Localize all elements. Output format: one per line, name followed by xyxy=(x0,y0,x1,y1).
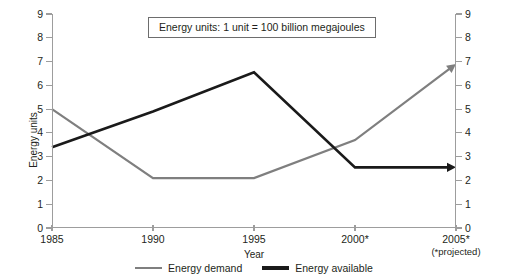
y-tick-right-0 xyxy=(456,227,462,228)
y-tick-left-4 xyxy=(46,132,52,133)
x-tick-label-note: (*projected) xyxy=(431,247,480,257)
y-tick-right-3 xyxy=(456,156,462,157)
x-tick-0 xyxy=(51,225,52,231)
y-tick-right-9 xyxy=(456,13,462,14)
y-tick-left-8 xyxy=(46,37,52,38)
y-tick-right-7 xyxy=(456,61,462,62)
y-tick-left-3 xyxy=(46,156,52,157)
y-tick-right-4 xyxy=(456,132,462,133)
legend-line-swatch xyxy=(262,266,289,269)
y-tick-label-right-6: 6 xyxy=(465,80,471,91)
x-tick-3 xyxy=(354,225,355,231)
x-tick-4 xyxy=(455,225,456,231)
y-axis-left-line xyxy=(52,14,53,228)
legend-label: Energy demand xyxy=(168,262,242,274)
y-tick-label-left-9: 9 xyxy=(37,9,43,20)
y-tick-right-8 xyxy=(456,37,462,38)
y-tick-label-right-7: 7 xyxy=(465,56,471,67)
y-tick-label-left-1: 1 xyxy=(37,199,43,210)
x-tick-label-4: 2005*(*projected) xyxy=(431,234,480,257)
y-tick-label-right-3: 3 xyxy=(465,151,471,162)
y-tick-right-1 xyxy=(456,204,462,205)
x-tick-label-0: 1985 xyxy=(40,234,63,245)
y-tick-left-9 xyxy=(46,13,52,14)
legend-label: Energy available xyxy=(295,262,373,274)
y-tick-label-left-4: 4 xyxy=(37,127,43,138)
x-tick-label-main: 1985 xyxy=(40,233,63,245)
y-tick-label-left-5: 5 xyxy=(37,104,43,115)
series-line-energy-available xyxy=(52,72,449,167)
y-tick-label-right-0: 0 xyxy=(465,223,471,234)
series-lines xyxy=(52,14,456,228)
y-tick-label-left-8: 8 xyxy=(37,32,43,43)
y-axis-right-line xyxy=(455,14,456,228)
y-tick-right-2 xyxy=(456,180,462,181)
y-tick-label-left-7: 7 xyxy=(37,56,43,67)
x-tick-1 xyxy=(152,225,153,231)
y-tick-right-6 xyxy=(456,85,462,86)
y-tick-label-right-9: 9 xyxy=(465,9,471,20)
y-tick-label-left-2: 2 xyxy=(37,175,43,186)
plot-area: 0123456789 0123456789 1985199019952000*2… xyxy=(52,14,456,228)
x-tick-label-3: 2000* xyxy=(341,234,368,245)
y-tick-right-5 xyxy=(456,109,462,110)
x-tick-label-main: 2000* xyxy=(341,233,368,245)
x-tick-label-main: 2005* xyxy=(442,233,469,245)
x-tick-label-2: 1995 xyxy=(242,234,265,245)
legend-line-swatch xyxy=(135,267,162,270)
y-tick-left-6 xyxy=(46,85,52,86)
y-tick-left-1 xyxy=(46,204,52,205)
y-tick-label-right-8: 8 xyxy=(465,32,471,43)
legend-item-energy-demand[interactable]: Energy demand xyxy=(135,262,242,274)
energy-line-chart: Energy units Year 0123456789 0123456789 … xyxy=(0,0,508,279)
y-tick-label-left-6: 6 xyxy=(37,80,43,91)
legend-item-energy-available[interactable]: Energy available xyxy=(262,262,373,274)
x-tick-label-main: 1995 xyxy=(242,233,265,245)
y-tick-label-left-3: 3 xyxy=(37,151,43,162)
y-tick-left-7 xyxy=(46,61,52,62)
y-tick-label-right-4: 4 xyxy=(465,127,471,138)
series-line-energy-demand xyxy=(52,68,450,178)
y-tick-left-5 xyxy=(46,109,52,110)
annotation-box: Energy units: 1 unit = 100 billion megaj… xyxy=(148,17,376,38)
y-tick-label-left-0: 0 xyxy=(37,223,43,234)
y-tick-left-2 xyxy=(46,180,52,181)
chart-legend: Energy demandEnergy available xyxy=(0,262,508,274)
x-tick-label-main: 1990 xyxy=(141,233,164,245)
x-tick-label-1: 1990 xyxy=(141,234,164,245)
x-tick-2 xyxy=(253,225,254,231)
y-tick-label-right-5: 5 xyxy=(465,104,471,115)
y-tick-label-right-2: 2 xyxy=(465,175,471,186)
y-tick-label-right-1: 1 xyxy=(465,199,471,210)
x-axis-title: Year xyxy=(52,249,456,260)
